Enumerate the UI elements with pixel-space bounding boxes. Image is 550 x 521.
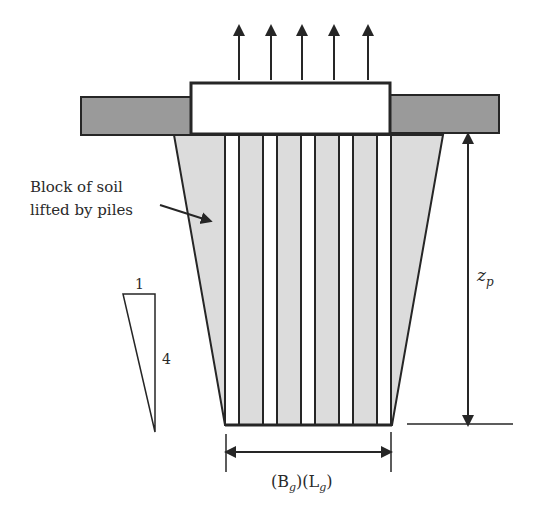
slope-triangle-icon: [123, 294, 155, 432]
pile: [263, 135, 277, 425]
uplift-arrows: [239, 30, 368, 80]
soil-block-label-line2: lifted by piles: [30, 201, 133, 219]
depth-subscript: p: [486, 275, 494, 289]
depth-label: zp: [476, 265, 494, 289]
pile: [301, 135, 315, 425]
pile-cap: [191, 83, 390, 134]
ground-slab-right: [390, 95, 499, 133]
ground-slab-left: [81, 97, 193, 135]
pile-uplift-diagram: Block of soil lifted by piles 1 4 zp (Bg…: [0, 0, 550, 521]
pile: [225, 135, 239, 425]
slope-horizontal-label: 1: [135, 276, 144, 292]
slope-vertical-label: 4: [162, 351, 171, 367]
pile: [339, 135, 353, 425]
pile: [377, 135, 391, 425]
soil-block-label-line1: Block of soil: [30, 178, 123, 196]
base-dimension-label: (Bg)(Lg): [271, 472, 332, 494]
